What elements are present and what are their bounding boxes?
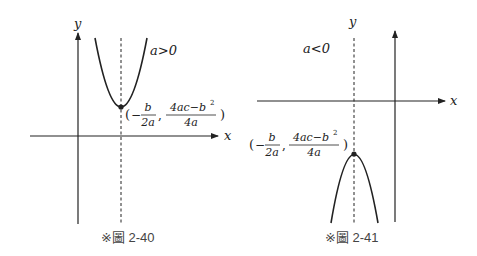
svg-text:4a: 4a [306,146,321,159]
y-axis-label: y [73,16,82,31]
vertex-point [118,104,123,109]
vertex-label: ( − b 2a , 4ac−b 2 4a ) [125,99,225,129]
svg-text:2a: 2a [140,116,155,129]
svg-text:): ) [343,137,348,152]
svg-text:−: − [255,138,265,152]
svg-text:−: − [131,108,141,122]
svg-text:(: ( [249,137,254,152]
svg-text:4a: 4a [183,116,198,129]
figure-2-40: x y a>0 ( − b 2a , 4ac−b 2 4a ) ※圖 2-40 [30,16,232,245]
svg-text:2: 2 [333,129,337,137]
y-axis-label: y [348,14,357,29]
diagram-canvas: x y a>0 ( − b 2a , 4ac−b 2 4a ) ※圖 2-40 [0,0,477,256]
svg-text:4ac−b: 4ac−b [169,101,206,114]
svg-text:2: 2 [210,99,214,107]
x-axis-label: x [224,128,232,143]
figure-2-41: x y a<0 ( − b 2a , 4ac−b 2 4a ) ※圖 2-41 [249,14,458,245]
figure-caption: ※圖 2-40 [101,230,155,245]
svg-text:,: , [282,138,286,152]
svg-text:b: b [144,101,151,114]
condition-label: a>0 [150,43,177,58]
x-axis-label: x [450,93,458,108]
svg-text:,: , [158,108,162,122]
svg-text:4ac−b: 4ac−b [292,131,329,144]
svg-text:(: ( [125,107,130,122]
svg-text:2a: 2a [264,146,279,159]
vertex-point [351,151,356,156]
vertex-label: ( − b 2a , 4ac−b 2 4a ) [249,129,348,159]
figure-caption: ※圖 2-41 [325,230,379,245]
svg-text:): ) [220,107,225,122]
svg-text:b: b [268,131,275,144]
condition-label: a<0 [303,41,330,56]
